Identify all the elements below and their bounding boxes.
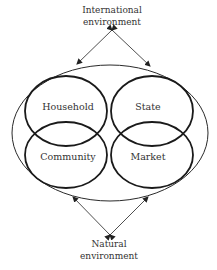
community-label: Community bbox=[40, 151, 96, 162]
market-label: Market bbox=[130, 151, 165, 162]
natural-environment-label-line1: Natural bbox=[91, 239, 126, 249]
international-environment-label-line2: environment bbox=[83, 17, 141, 27]
arrow-natural-right bbox=[110, 197, 148, 235]
household-label: Household bbox=[42, 101, 94, 112]
diagram-canvas: International environment Household Stat… bbox=[0, 0, 217, 270]
arrow-natural-left bbox=[73, 197, 110, 235]
natural-environment-label-line2: environment bbox=[80, 251, 138, 261]
international-environment-label-line1: International bbox=[82, 5, 142, 15]
arrow-international-left bbox=[77, 30, 112, 64]
state-label: State bbox=[135, 101, 161, 112]
arrow-international-right bbox=[112, 30, 150, 66]
